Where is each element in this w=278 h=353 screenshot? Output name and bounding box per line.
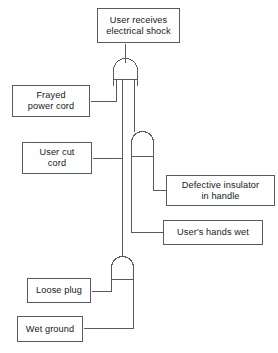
node-frayed-power-cord[interactable]: Frayed power cord xyxy=(12,85,90,117)
node-user-cut-cord[interactable]: User cut cord xyxy=(22,142,92,174)
node-label: Frayed power cord xyxy=(25,90,77,112)
node-label: Wet ground xyxy=(23,324,77,335)
gate-middle-dome xyxy=(132,132,154,149)
fault-tree-diagram: User receives electrical shock Frayed po… xyxy=(0,0,278,353)
node-label: User's hands wet xyxy=(174,227,252,238)
node-loose-plug[interactable]: Loose plug xyxy=(27,278,91,303)
node-defective-insulator-in-handle[interactable]: Defective insulator in handle xyxy=(166,175,275,206)
node-user-receives-electrical-shock[interactable]: User receives electrical shock xyxy=(97,8,180,43)
node-users-hands-wet[interactable]: User's hands wet xyxy=(163,220,263,245)
gate-bottom-dome xyxy=(112,257,134,273)
node-label: Defective insulator in handle xyxy=(179,180,262,202)
node-label: User receives electrical shock xyxy=(103,15,173,37)
node-label: Loose plug xyxy=(33,285,85,296)
node-wet-ground[interactable]: Wet ground xyxy=(17,316,83,342)
node-label: User cut cord xyxy=(36,147,77,169)
